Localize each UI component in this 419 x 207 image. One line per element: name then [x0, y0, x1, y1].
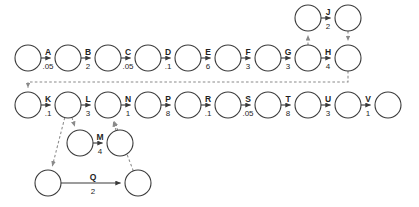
- edge-k-label: K: [45, 94, 52, 104]
- edge-f-label: F: [245, 47, 250, 57]
- node-row2-3[interactable]: [95, 92, 121, 118]
- edge-h-weight: 4: [326, 62, 331, 71]
- edge-c-weight: .05: [122, 62, 134, 71]
- node-row2-1[interactable]: [15, 92, 41, 118]
- node-top-j-source[interactable]: [295, 5, 321, 31]
- edge-a-label: A: [45, 47, 51, 57]
- node-row1-7[interactable]: [255, 45, 281, 71]
- edge-j-weight: 2: [326, 22, 331, 31]
- node-row1-1[interactable]: [15, 45, 41, 71]
- node-row3-m-source[interactable]: [67, 130, 93, 156]
- edge-n-weight: 1: [126, 109, 131, 118]
- edge-l-weight: 3: [86, 109, 91, 118]
- dashed-edge-row2-to-q-source[interactable]: [52, 118, 64, 166]
- node-row1-3[interactable]: [95, 45, 121, 71]
- edge-v-label: V: [365, 94, 371, 104]
- edge-t-weight: 8: [286, 109, 291, 118]
- edge-g-weight: 3: [286, 62, 291, 71]
- diagram-svg: A.05B2C.05D.1E6F3G3H4J2K.1L3N1P8R.1S.05T…: [0, 0, 419, 207]
- edge-q-label: Q: [90, 172, 97, 182]
- node-row2-6[interactable]: [215, 92, 241, 118]
- edge-g-label: G: [285, 47, 292, 57]
- node-row2-7[interactable]: [255, 92, 281, 118]
- edge-p-label: P: [165, 94, 171, 104]
- node-row1-5[interactable]: [175, 45, 201, 71]
- edge-j-label: J: [326, 7, 331, 17]
- edge-s-weight: .05: [242, 109, 254, 118]
- edge-label-layer: A.05B2C.05D.1E6F3G3H4J2K.1L3N1P8R.1S.05T…: [42, 7, 371, 196]
- edge-d-weight: .1: [165, 62, 172, 71]
- edge-u-weight: 3: [326, 109, 331, 118]
- node-row3-m-target[interactable]: [107, 130, 133, 156]
- edge-n-label: N: [125, 94, 131, 104]
- node-row2-2[interactable]: [55, 92, 81, 118]
- edge-q-weight: 2: [91, 187, 96, 196]
- edge-u-label: U: [325, 94, 331, 104]
- node-row2-5[interactable]: [175, 92, 201, 118]
- dashed-edge-feedback-h-to-row2[interactable]: [28, 71, 348, 88]
- node-row1-8[interactable]: [295, 45, 321, 71]
- node-row2-9[interactable]: [335, 92, 361, 118]
- edge-b-label: B: [85, 47, 91, 57]
- edge-d-label: D: [165, 47, 171, 57]
- edge-s-label: S: [245, 94, 251, 104]
- edge-k-weight: .1: [45, 109, 52, 118]
- edge-c-label: C: [125, 47, 131, 57]
- node-row2-4[interactable]: [135, 92, 161, 118]
- node-row1-9[interactable]: [335, 45, 361, 71]
- node-row2-8[interactable]: [295, 92, 321, 118]
- edge-e-weight: 6: [206, 62, 211, 71]
- edge-l-label: L: [85, 94, 90, 104]
- edge-a-weight: .05: [42, 62, 54, 71]
- edge-p-weight: 8: [166, 109, 171, 118]
- edge-r-label: R: [205, 94, 211, 104]
- edge-m-weight: 4: [98, 147, 103, 156]
- node-top-j-target[interactable]: [335, 5, 361, 31]
- node-row1-6[interactable]: [215, 45, 241, 71]
- node-row1-4[interactable]: [135, 45, 161, 71]
- node-row1-2[interactable]: [55, 45, 81, 71]
- dashed-edge-row2-to-m-source[interactable]: [72, 117, 75, 126]
- edge-v-weight: 1: [366, 109, 371, 118]
- node-row4-q-source[interactable]: [35, 170, 61, 196]
- edge-b-weight: 2: [86, 62, 91, 71]
- edge-h-label: H: [325, 47, 331, 57]
- edge-t-label: T: [285, 94, 291, 104]
- diagram-canvas: A.05B2C.05D.1E6F3G3H4J2K.1L3N1P8R.1S.05T…: [0, 0, 419, 207]
- edge-f-weight: 3: [246, 62, 251, 71]
- edge-r-weight: .1: [205, 109, 212, 118]
- edge-e-label: E: [205, 47, 211, 57]
- node-row2-10[interactable]: [375, 92, 401, 118]
- edge-m-label: M: [96, 132, 103, 142]
- node-row4-q-target[interactable]: [125, 170, 151, 196]
